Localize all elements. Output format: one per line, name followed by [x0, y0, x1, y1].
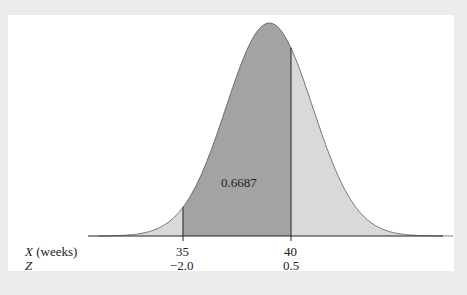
tick-z-35: −2.0	[170, 258, 194, 274]
area-label: 0.6687	[221, 175, 257, 191]
x-axis-label: X (weeks)	[25, 244, 77, 260]
shaded-area	[183, 23, 291, 236]
z-axis-label: Z	[25, 258, 32, 274]
tick-z-40: 0.5	[283, 258, 299, 274]
